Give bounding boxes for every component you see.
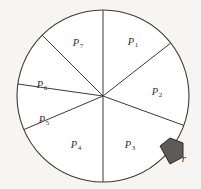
sector-label-p3: P3 [125,140,135,151]
sector-label-p5-letter: P [39,114,46,125]
sector-label-p1-letter: P [128,36,135,47]
sector-label-p2-letter: P [152,86,159,97]
sector-label-p2: P2 [152,87,162,98]
sector-label-p7: P7 [73,38,83,49]
sector-label-p3-letter: P [125,139,132,150]
sector-label-p6: P6 [37,80,47,91]
sector-label-p5: P5 [39,115,49,126]
sector-label-p2-subscript: 2 [159,91,163,99]
sector-label-p6-subscript: 6 [44,84,48,92]
sector-label-p7-letter: P [73,37,80,48]
sector-label-p7-subscript: 7 [80,42,84,50]
sector-label-p4-subscript: 4 [78,144,82,152]
sector-label-p5-subscript: 5 [46,119,50,127]
circle-diagram-svg [0,0,201,189]
sector-label-p3-subscript: 3 [132,144,136,152]
figure-container: P1 P2 P3 P4 P5 P6 P7 r [0,0,201,189]
radius-pointer-label: r [182,153,186,164]
sector-label-p6-letter: P [37,79,44,90]
sector-label-p1: P1 [128,37,138,48]
sector-label-p1-subscript: 1 [135,41,139,49]
sector-label-p4: P4 [71,140,81,151]
sector-label-p4-letter: P [71,139,78,150]
